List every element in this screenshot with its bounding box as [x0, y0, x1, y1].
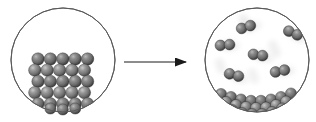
pool-sphere — [236, 107, 247, 118]
lattice-row — [32, 53, 94, 65]
lattice-sphere — [69, 53, 81, 65]
lattice-sphere — [81, 75, 93, 87]
lattice-base-overflow — [45, 103, 81, 115]
lattice-sphere — [44, 53, 56, 65]
lattice-sphere — [32, 75, 44, 87]
lattice-sphere — [53, 64, 65, 76]
lattice-sphere — [32, 53, 44, 65]
pool-sphere — [276, 103, 287, 114]
lattice-sphere — [69, 75, 81, 87]
gas-state-container — [205, 8, 310, 120]
lattice-sphere — [29, 86, 41, 98]
lattice-sphere — [78, 86, 90, 98]
lattice-sphere — [41, 86, 53, 98]
pool-sphere — [246, 108, 257, 119]
lattice-sphere — [57, 53, 69, 65]
lattice-sphere — [53, 86, 65, 98]
lattice-row — [32, 75, 94, 87]
lattice-sphere — [70, 103, 81, 114]
lattice-sphere — [81, 53, 93, 65]
lattice-sphere — [66, 64, 78, 76]
lattice-sphere — [45, 103, 56, 114]
lattice-sphere — [44, 75, 56, 87]
lattice-sphere — [66, 86, 78, 98]
crystal-lattice — [29, 53, 94, 110]
lattice-row — [29, 64, 91, 76]
lattice-sphere — [78, 64, 90, 76]
pool-sphere — [256, 108, 267, 119]
lattice-sphere — [57, 104, 68, 115]
phase-change-diagram — [0, 0, 316, 122]
solid-state-container — [11, 8, 115, 115]
lattice-sphere — [29, 64, 41, 76]
lattice-row — [29, 86, 91, 98]
figure-canvas — [0, 0, 316, 122]
lattice-sphere — [57, 75, 69, 87]
lattice-sphere — [41, 64, 53, 76]
